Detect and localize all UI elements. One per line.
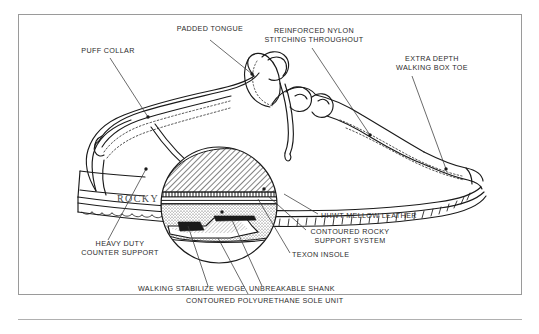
callout-heavy-duty-line1: HEAVY DUTY bbox=[58, 239, 182, 248]
callout-contoured-rocky-line2: SUPPORT SYSTEM bbox=[288, 236, 412, 245]
callout-extra-depth-box-toe: EXTRA DEPTH WALKING BOX TOE bbox=[372, 54, 492, 73]
rocky-brand-mark: ROCKY bbox=[117, 193, 159, 204]
callout-padded-tongue-line1: PADDED TONGUE bbox=[150, 24, 270, 33]
callout-unbreakable-shank: UNBREAKABLE SHANK bbox=[249, 284, 389, 293]
callout-texon-insole: TEXON INSOLE bbox=[292, 250, 412, 259]
callout-unbreakable-shank-line1: UNBREAKABLE SHANK bbox=[249, 284, 389, 293]
callout-extra-depth-line1: EXTRA DEPTH bbox=[372, 54, 492, 63]
diagram-page: PADDED TONGUE PUFF COLLAR REINFORCED NYL… bbox=[0, 0, 539, 334]
callout-hhwt-mellow-leather: HHWT MELLOW LEATHER bbox=[321, 211, 481, 220]
callout-heavy-duty-line2: COUNTER SUPPORT bbox=[58, 248, 182, 257]
callout-contoured-rocky-line1: CONTOURED ROCKY bbox=[288, 227, 412, 236]
callout-contoured-rocky-support: CONTOURED ROCKY SUPPORT SYSTEM bbox=[288, 227, 412, 246]
callout-reinforced-nylon-line1: REINFORCED NYLON bbox=[254, 26, 374, 35]
callout-puff-collar-line1: PUFF COLLAR bbox=[48, 46, 168, 55]
callout-polyurethane-line1: CONTOURED POLYURETHANE SOLE UNIT bbox=[186, 296, 406, 305]
callout-texon-line1: TEXON INSOLE bbox=[292, 250, 412, 259]
callout-puff-collar: PUFF COLLAR bbox=[48, 46, 168, 55]
callout-polyurethane-sole: CONTOURED POLYURETHANE SOLE UNIT bbox=[186, 296, 406, 305]
callout-reinforced-nylon-line2: STITCHING THROUGHOUT bbox=[254, 35, 374, 44]
callout-hhwt-line1: HHWT MELLOW LEATHER bbox=[321, 211, 481, 220]
callout-extra-depth-line2: WALKING BOX TOE bbox=[372, 63, 492, 72]
bottom-divider bbox=[18, 319, 522, 320]
callout-heavy-duty-counter: HEAVY DUTY COUNTER SUPPORT bbox=[58, 239, 182, 258]
callout-reinforced-nylon: REINFORCED NYLON STITCHING THROUGHOUT bbox=[254, 26, 374, 45]
callout-padded-tongue: PADDED TONGUE bbox=[150, 24, 270, 33]
